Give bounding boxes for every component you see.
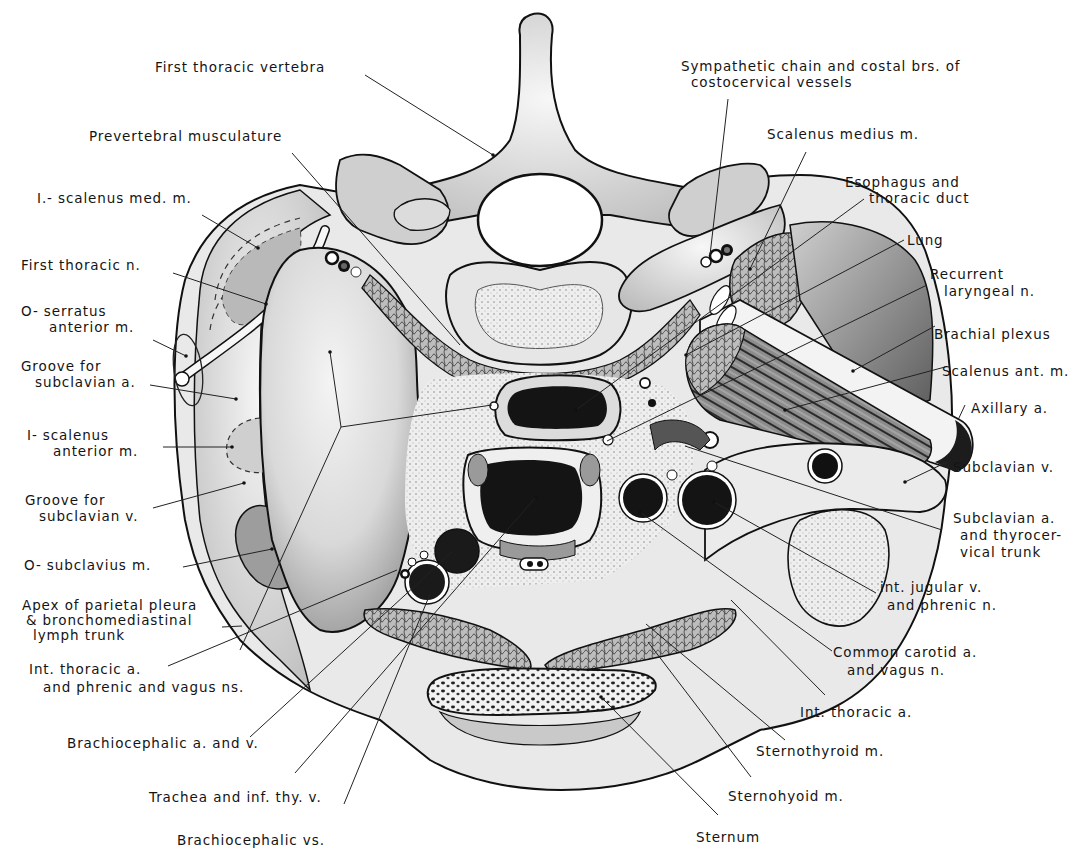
label-brachiocephalic-veins: Brachiocephalic vs.: [177, 832, 325, 848]
label-brachial-plexus: Brachial plexus: [934, 326, 1051, 342]
label-axillary-artery: Axillary a.: [971, 400, 1048, 416]
anatomy-figure: First thoracic vertebra Prevertebral mus…: [0, 0, 1088, 860]
sternum: [428, 668, 656, 715]
label-serratus-anterior-origin: O- serratus anterior m.: [21, 303, 134, 335]
label-lung: Lung: [907, 232, 944, 248]
label-sternum: Sternum: [696, 829, 760, 845]
label-scalenus-anterior: Scalenus ant. m.: [942, 363, 1069, 379]
label-prevertebral-musculature: Prevertebral musculature: [89, 128, 282, 144]
label-int-thoracic-artery-right: Int. thoracic a.: [800, 704, 912, 720]
label-int-thoracic-artery-left: Int. thoracic a. and phrenic and vagus n…: [29, 660, 244, 696]
label-subclavius-origin: O- subclavius m.: [24, 557, 151, 573]
label-trachea: Trachea and inf. thy. v.: [149, 789, 322, 805]
vertebral-foramen: [478, 174, 602, 266]
label-recurrent-laryngeal: Recurrent laryngeal n.: [930, 266, 1035, 300]
label-scalenus-anterior-insertion: I- scalenus anterior m.: [27, 427, 138, 459]
label-esophagus: Esophagus and thoracic duct: [845, 174, 969, 206]
label-scalenus-med-insertion: I.- scalenus med. m.: [37, 190, 192, 206]
label-groove-subclavian-artery: Groove for subclavian a.: [21, 358, 136, 390]
label-scalenus-medius: Scalenus medius m.: [767, 126, 919, 142]
label-sternohyoid: Sternohyoid m.: [728, 788, 844, 804]
label-common-carotid: Common carotid a. and vagus n.: [833, 643, 977, 679]
label-subclavian-artery: Subclavian a. and thyrocer- vical trunk: [953, 510, 1062, 561]
label-first-thoracic-vertebra: First thoracic vertebra: [155, 59, 325, 75]
label-sympathetic-chain: Sympathetic chain and costal brs. of cos…: [681, 58, 960, 90]
label-apex-parietal-pleura: Apex of parietal pleura & bronchomediast…: [22, 598, 197, 643]
label-sternothyroid: Sternothyroid m.: [756, 743, 884, 759]
label-int-jugular-vein: int. jugular v. and phrenic n.: [880, 578, 997, 614]
label-subclavian-vein: Subclavian v.: [953, 459, 1054, 475]
label-brachiocephalic-a-v: Brachiocephalic a. and v.: [67, 735, 259, 751]
label-first-thoracic-nerve: First thoracic n.: [21, 257, 141, 273]
label-groove-subclavian-vein: Groove for subclavian v.: [25, 492, 138, 524]
